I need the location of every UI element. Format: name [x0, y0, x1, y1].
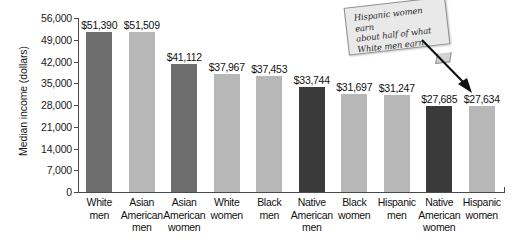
- y-axis-tick-labels: 56,00049,00042,00035,00028,00021,00014,0…: [16, 0, 72, 250]
- y-axis-tick-label: 14,000: [20, 144, 72, 154]
- bar-slot: [299, 18, 325, 192]
- y-axis-line: [78, 18, 79, 193]
- y-axis-tick-label: 35,000: [20, 78, 72, 88]
- x-axis-category-labels: WhitemenAsianAmericanmenAsianAmericanwom…: [78, 196, 503, 250]
- y-axis-tick-label: 7,000: [20, 165, 72, 175]
- category-label-line: women: [412, 221, 467, 234]
- bar: [469, 106, 495, 192]
- category-label-line: women: [157, 221, 212, 234]
- x-axis-category-label: Hispanicwomen: [455, 196, 510, 221]
- category-label-line: Hispanic: [455, 196, 510, 209]
- category-label-line: women: [455, 209, 510, 222]
- bar: [426, 106, 452, 192]
- bar: [171, 64, 197, 192]
- bar: [384, 95, 410, 192]
- y-axis-tick-label: 0: [20, 187, 72, 197]
- category-label-line: men: [285, 221, 340, 234]
- x-axis-end-tick: [504, 187, 505, 192]
- x-axis-line: [78, 192, 505, 193]
- bar: [256, 76, 282, 192]
- bar: [214, 74, 240, 192]
- bar-slot: [214, 18, 240, 192]
- y-axis-tick-label: 49,000: [20, 35, 72, 45]
- bar: [129, 32, 155, 192]
- bar-slot: [256, 18, 282, 192]
- bar-slot: [86, 18, 112, 192]
- bar: [86, 32, 112, 192]
- y-axis-tick-label: 56,000: [20, 13, 72, 23]
- y-axis-tick-label: 21,000: [20, 122, 72, 132]
- bar-value-label: $51,509: [111, 19, 173, 31]
- y-axis-tick-label: 28,000: [20, 100, 72, 110]
- bar-chart: Median income (dollars) 56,00049,00042,0…: [0, 0, 513, 250]
- bar: [341, 94, 367, 192]
- bar: [299, 87, 325, 192]
- bar-value-label: $37,453: [238, 63, 300, 75]
- bar-slot: [171, 18, 197, 192]
- bar-slot: [129, 18, 155, 192]
- y-axis-tick-label: 42,000: [20, 57, 72, 67]
- annotation-arrow-icon: [420, 38, 488, 104]
